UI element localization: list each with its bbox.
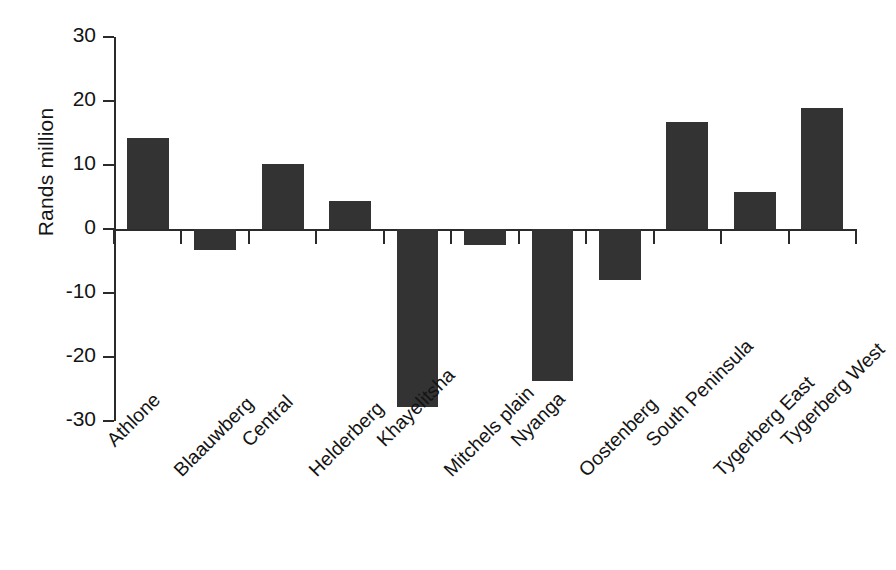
x-tick xyxy=(248,229,250,244)
bar xyxy=(801,108,843,229)
x-tick xyxy=(855,229,857,244)
y-tick: -30 xyxy=(103,420,114,422)
x-tick xyxy=(450,229,452,244)
y-tick-label: -10 xyxy=(66,279,96,303)
bar xyxy=(329,201,371,229)
x-axis-labels: AthloneBlaauwbergCentralHelderbergKhayel… xyxy=(114,421,856,570)
y-tick: -20 xyxy=(103,356,114,358)
bar xyxy=(194,229,236,250)
x-tick xyxy=(585,229,587,244)
bar xyxy=(464,229,506,245)
y-tick: 30 xyxy=(103,36,114,38)
y-tick-label: -20 xyxy=(66,343,96,367)
y-axis-title: Rands million xyxy=(34,82,58,262)
bar xyxy=(599,229,641,280)
bar xyxy=(127,138,169,229)
bar xyxy=(532,229,574,381)
x-tick xyxy=(180,229,182,244)
y-tick-label: 20 xyxy=(73,87,96,111)
y-tick-label: 10 xyxy=(73,151,96,175)
bar xyxy=(734,192,776,229)
bar xyxy=(666,122,708,229)
bar xyxy=(262,164,304,229)
x-tick xyxy=(113,229,115,244)
x-tick xyxy=(518,229,520,244)
y-tick: 10 xyxy=(103,164,114,166)
y-tick-label: 30 xyxy=(73,23,96,47)
y-tick: -10 xyxy=(103,292,114,294)
x-tick xyxy=(383,229,385,244)
y-tick: 20 xyxy=(103,100,114,102)
x-tick xyxy=(720,229,722,244)
y-tick-label: 0 xyxy=(84,215,96,239)
x-tick xyxy=(315,229,317,244)
x-tick xyxy=(653,229,655,244)
bar-chart: Rands million 3020100-10-20-30 AthloneBl… xyxy=(0,0,896,570)
x-tick xyxy=(788,229,790,244)
y-tick-label: -30 xyxy=(66,407,96,431)
